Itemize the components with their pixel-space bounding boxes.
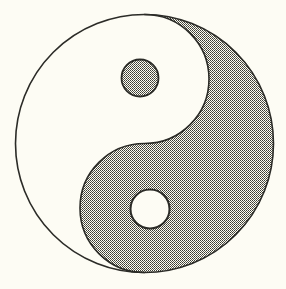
taijitu-figure bbox=[0, 0, 286, 289]
figure-canvas: Taijitu (Yin-Yang symbol) Black-and-whit… bbox=[0, 0, 286, 289]
